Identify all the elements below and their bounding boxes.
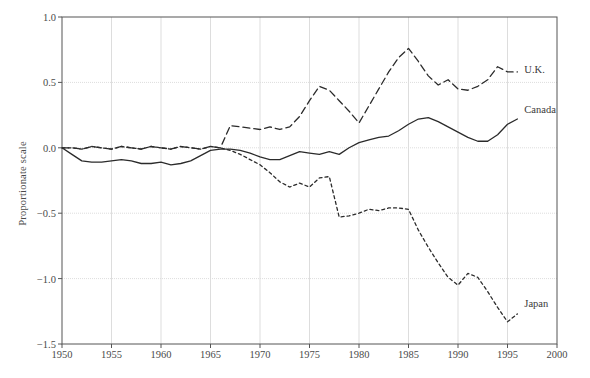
series-line-uk	[62, 48, 517, 149]
series-line-canada	[62, 118, 517, 165]
series-label-japan: Japan	[524, 298, 548, 309]
plot-area	[0, 0, 590, 378]
x-axis-tick-label: 2000	[527, 349, 587, 360]
series-line-japan	[62, 146, 517, 321]
series-label-canada: Canada	[524, 104, 556, 115]
series-label-uk: U.K.	[524, 64, 544, 75]
line-chart: Proportionate scale −1.5−1.0−0.50.00.51.…	[0, 0, 590, 378]
